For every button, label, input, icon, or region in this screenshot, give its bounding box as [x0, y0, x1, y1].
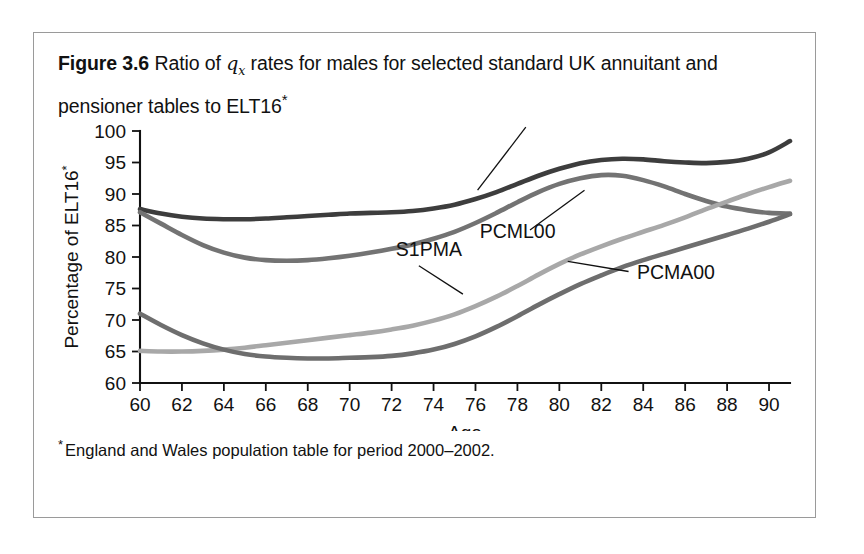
x-tick-label: 82	[591, 394, 612, 415]
y-tick-label: 80	[105, 247, 126, 268]
x-tick-label: 64	[213, 394, 235, 415]
x-tick-label: 66	[255, 394, 276, 415]
qx-math-symbol: qx	[226, 52, 245, 74]
y-tick-label: 65	[105, 341, 126, 362]
x-tick-label: 62	[171, 394, 192, 415]
x-axis-title: Age	[448, 422, 482, 431]
x-axis: 60626466687072747678808284868890	[129, 383, 790, 415]
chart-plot-area: 6065707580859095100 60626466687072747678…	[48, 121, 803, 431]
series-label-pcml00: PCML00	[480, 220, 556, 242]
x-tick-label: 60	[129, 394, 150, 415]
x-tick-label: 90	[758, 394, 779, 415]
series-label-pcma00: PCMA00	[637, 261, 715, 283]
y-tick-label: 70	[105, 310, 126, 331]
y-tick-label: 85	[105, 215, 126, 236]
y-tick-label: 75	[105, 278, 126, 299]
y-tick-label: 95	[105, 152, 126, 173]
series-line-s1pml	[140, 141, 790, 219]
series-label-s1pma: S1PMA	[396, 238, 462, 260]
x-tick-label: 72	[381, 394, 402, 415]
leader-line-s1pml	[478, 127, 526, 190]
y-tick-label: 60	[105, 373, 126, 394]
leader-line-s1pma	[419, 266, 463, 294]
x-tick-label: 86	[675, 394, 696, 415]
x-tick-label: 76	[465, 394, 486, 415]
line-chart: 6065707580859095100 60626466687072747678…	[48, 121, 803, 431]
y-axis: 6065707580859095100	[94, 121, 140, 394]
figure-container: Figure 3.6 Ratio of qx rates for males f…	[33, 32, 816, 518]
caption-text-part1: Ratio of	[149, 52, 226, 74]
series-line-pcma00	[140, 214, 790, 358]
footnote-marker: *	[58, 437, 63, 452]
series-lines	[140, 141, 790, 358]
x-tick-label: 74	[423, 394, 445, 415]
x-tick-label: 88	[717, 394, 738, 415]
x-tick-label: 84	[633, 394, 655, 415]
figure-footnote: *England and Wales population table for …	[58, 437, 778, 460]
figure-number: Figure 3.6	[58, 52, 149, 74]
y-axis-title: Percentage of ELT16*	[59, 165, 83, 348]
x-tick-label: 80	[549, 394, 570, 415]
x-tick-label: 68	[297, 394, 318, 415]
figure-caption: Figure 3.6 Ratio of qx rates for males f…	[58, 49, 748, 120]
y-tick-label: 90	[105, 184, 126, 205]
y-tick-label: 100	[94, 121, 126, 142]
x-tick-label: 70	[339, 394, 360, 415]
qx-base: q	[226, 52, 238, 74]
x-tick-label: 78	[507, 394, 528, 415]
footnote-text: England and Wales population table for p…	[65, 441, 495, 459]
caption-footnote-marker: *	[282, 91, 288, 108]
